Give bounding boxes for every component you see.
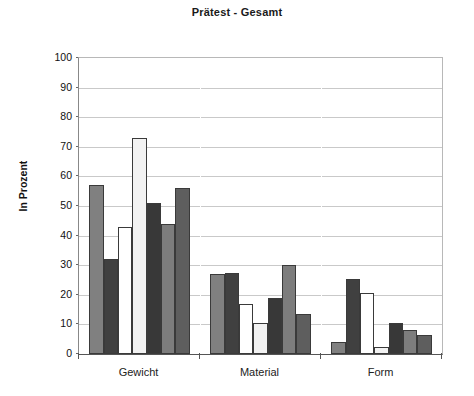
bar — [225, 273, 239, 354]
category-separator — [200, 58, 201, 354]
y-tick-label: 50 — [12, 200, 72, 211]
bar — [360, 293, 374, 354]
category-tick — [441, 353, 442, 359]
bar — [346, 279, 360, 354]
y-tick-label: 90 — [12, 81, 72, 92]
category-separator — [321, 58, 322, 354]
bar — [104, 259, 118, 354]
bar — [374, 347, 388, 354]
y-tick-label: 40 — [12, 229, 72, 240]
y-tick-label: 20 — [12, 289, 72, 300]
y-tick-label: 80 — [12, 111, 72, 122]
y-tick-label: 60 — [12, 170, 72, 181]
y-tick-label: 0 — [12, 348, 72, 359]
bar — [331, 342, 345, 354]
bar — [239, 304, 253, 354]
bar — [403, 330, 417, 354]
bar — [389, 323, 403, 354]
category-tick — [199, 353, 200, 359]
x-axis-category-label: Gewicht — [119, 366, 159, 378]
bar — [210, 274, 224, 354]
category-tick — [320, 353, 321, 359]
bar — [253, 323, 267, 354]
y-axis-ticks: 1009080706050403020100 — [8, 57, 72, 355]
gridline — [79, 117, 442, 118]
y-tick-label: 30 — [12, 259, 72, 270]
bar — [296, 314, 310, 354]
bar — [282, 265, 296, 354]
chart-figure: Prätest - Gesamt In Prozent 100908070605… — [0, 0, 474, 396]
gridline — [79, 88, 442, 89]
bar — [147, 203, 161, 354]
y-tick-label: 100 — [12, 52, 72, 63]
bar — [132, 138, 146, 354]
y-tick-label: 70 — [12, 141, 72, 152]
x-axis-category-label: Material — [240, 366, 279, 378]
x-axis-category-label: Form — [368, 366, 394, 378]
bar — [161, 224, 175, 354]
bar — [118, 227, 132, 354]
bar — [89, 185, 103, 354]
category-tick — [78, 353, 79, 359]
bar — [175, 188, 189, 354]
bar — [268, 298, 282, 354]
chart-title: Prätest - Gesamt — [0, 6, 474, 18]
plot-area — [78, 57, 443, 355]
bar — [417, 335, 431, 354]
y-tick-label: 10 — [12, 318, 72, 329]
